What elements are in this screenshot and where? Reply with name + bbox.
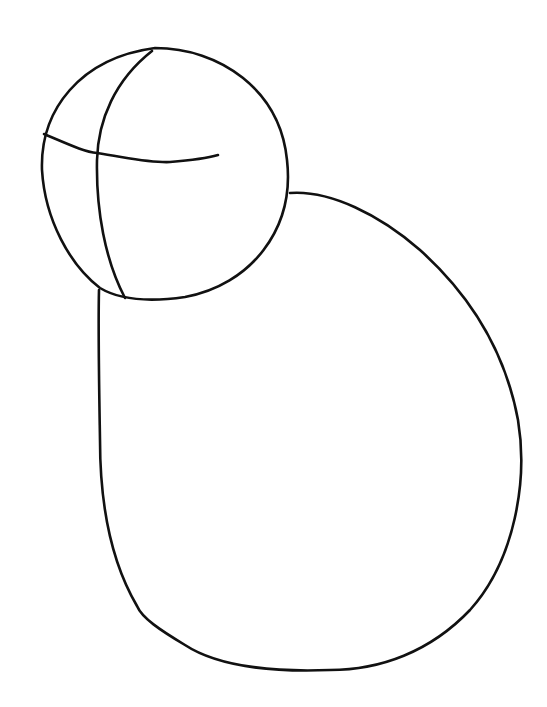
head-vertical-guideline <box>97 51 152 298</box>
head-outline <box>42 48 288 300</box>
head-horizontal-guideline <box>44 134 218 162</box>
sketch-canvas <box>0 0 547 707</box>
body-outline <box>99 193 522 671</box>
